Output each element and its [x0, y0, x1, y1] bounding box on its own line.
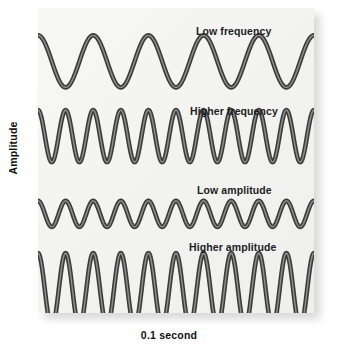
wave-path-low-amplitude-outline	[38, 201, 314, 227]
wave-label-higher-amplitude: Higher amplitude	[189, 242, 276, 253]
wave-trace-low-amplitude	[38, 201, 314, 227]
wave-path-higher-amplitude-core	[38, 253, 314, 313]
wave-label-low-amplitude: Low amplitude	[197, 185, 272, 196]
x-axis-title: 0.1 second	[0, 329, 338, 341]
wave-path-low-amplitude-core	[38, 201, 314, 227]
wave-path-higher-amplitude-outline	[38, 253, 314, 313]
wave-path-higher-frequency-core	[38, 110, 314, 162]
waveform-plot-svg	[38, 8, 314, 313]
wave-trace-low-frequency	[38, 35, 314, 87]
wave-label-low-frequency: Low frequency	[196, 26, 271, 37]
wave-path-low-frequency-core	[38, 35, 314, 87]
wave-trace-higher-amplitude	[38, 253, 314, 313]
y-axis-title: Amplitude	[7, 113, 19, 183]
waveform-panel: Low frequency Higher frequency Low ampli…	[38, 8, 314, 313]
wave-label-higher-frequency: Higher frequency	[190, 106, 278, 117]
waveform-figure: Low frequency Higher frequency Low ampli…	[0, 0, 338, 347]
wave-trace-higher-frequency	[38, 110, 314, 162]
wave-path-higher-frequency-outline	[38, 110, 314, 162]
